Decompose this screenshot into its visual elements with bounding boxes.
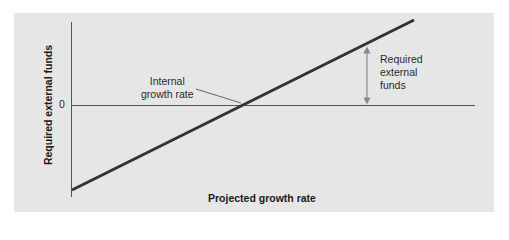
required-external-funds-label: Required external funds [380,53,423,92]
x-axis-label: Projected growth rate [208,192,316,204]
y-axis-zero-tick: 0 [59,98,65,110]
internal-growth-rate-label-line1: Internal [141,75,194,88]
y-axis-label: Required external funds [42,45,54,165]
required-external-funds-label-line1: Required [380,53,423,66]
internal-growth-rate-leader [196,89,241,103]
internal-growth-rate-label: Internal growth rate [141,75,194,101]
required-external-funds-label-line2: external [380,66,423,79]
internal-growth-rate-label-line2: growth rate [141,88,194,101]
required-external-funds-label-line3: funds [380,79,423,92]
